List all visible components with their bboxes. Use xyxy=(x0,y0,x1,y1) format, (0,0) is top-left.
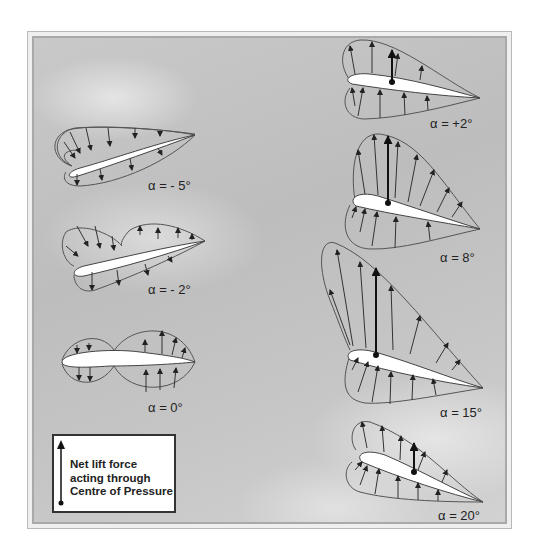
label-alpha-20: α = 20° xyxy=(438,508,480,523)
label-alpha-15: α = 15° xyxy=(440,405,482,420)
legend-text: Net lift force acting through Centre of … xyxy=(70,458,173,499)
label-alpha-8: α = 8° xyxy=(440,250,475,265)
airfoil-alpha-0 xyxy=(62,331,195,392)
legend-line-2: acting through xyxy=(70,472,173,486)
airfoil-alpha-minus2 xyxy=(62,224,205,291)
label-alpha-plus2: α = +2° xyxy=(430,116,472,131)
label-alpha-minus2: α = - 2° xyxy=(148,282,191,297)
label-alpha-0: α = 0° xyxy=(148,400,183,415)
legend-line-1: Net lift force xyxy=(70,458,173,472)
net-lift-arrow-icon xyxy=(54,436,68,511)
airfoil-alpha-plus2 xyxy=(343,40,480,119)
airfoil-alpha-8 xyxy=(345,134,480,249)
legend-line-3: Centre of Pressure xyxy=(70,485,173,499)
airfoil-alpha-20 xyxy=(346,422,483,502)
label-alpha-minus5: α = - 5° xyxy=(148,178,191,193)
airfoil-alpha-15 xyxy=(322,242,483,404)
legend-box: Net lift force acting through Centre of … xyxy=(52,434,176,513)
